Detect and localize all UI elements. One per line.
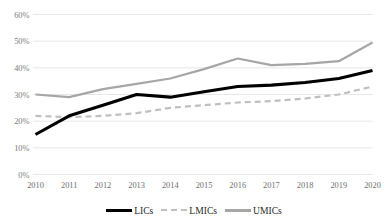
x-axis-tick-label: 2015 (196, 181, 213, 190)
y-axis-tick-label: 0% (18, 171, 29, 180)
x-axis-tick-label: 2010 (27, 181, 44, 190)
series-lines (36, 43, 373, 135)
x-axis-tick-label: 2019 (330, 181, 347, 190)
legend-item-lmics: LMICs (161, 205, 217, 216)
y-axis-tick-label: 30% (14, 91, 29, 100)
y-axis-tick-label: 10% (14, 144, 29, 153)
x-axis-tick-label: 2017 (263, 181, 280, 190)
y-axis-tick-label: 60% (14, 11, 29, 20)
plot-svg: 0%10%20%30%40%50%60% 2010201120122013201… (0, 0, 388, 196)
x-axis-tick-label: 2016 (229, 181, 246, 190)
legend-label-lmics: LMICs (189, 206, 217, 216)
x-axis-tick-label: 2012 (95, 181, 112, 190)
y-axis-tick-label: 40% (14, 64, 29, 73)
legend-label-lics: LICs (134, 206, 153, 216)
legend-swatch-lics-line-icon (106, 205, 132, 216)
legend-item-lics: LICs (106, 205, 153, 216)
x-axis-tick-label: 2018 (297, 181, 314, 190)
y-axis-tick-label: 20% (14, 117, 29, 126)
y-axis-tick-labels: 0%10%20%30%40%50%60% (14, 11, 29, 180)
legend-label-umics: UMICs (253, 206, 282, 216)
legend-swatch-lmics-dashed-line-icon (161, 205, 187, 216)
plot-area: 0%10%20%30%40%50%60% 2010201120122013201… (0, 0, 388, 196)
line-chart: 0%10%20%30%40%50%60% 2010201120122013201… (0, 0, 388, 223)
x-axis-tick-labels: 2010201120122013201420152016201720182019… (27, 181, 381, 190)
x-axis-tick-label: 2014 (162, 181, 180, 190)
x-axis-tick-label: 2013 (128, 181, 145, 190)
legend-swatch-umics-line-icon (225, 205, 251, 216)
x-axis-tick-label: 2020 (364, 181, 381, 190)
x-axis-tick-label: 2011 (61, 181, 77, 190)
y-axis-tick-label: 50% (14, 37, 29, 46)
series-line-lics (36, 71, 373, 135)
series-line-umics (36, 43, 373, 98)
chart-legend: LICs LMICs UMICs (0, 198, 388, 223)
legend-item-umics: UMICs (225, 205, 282, 216)
